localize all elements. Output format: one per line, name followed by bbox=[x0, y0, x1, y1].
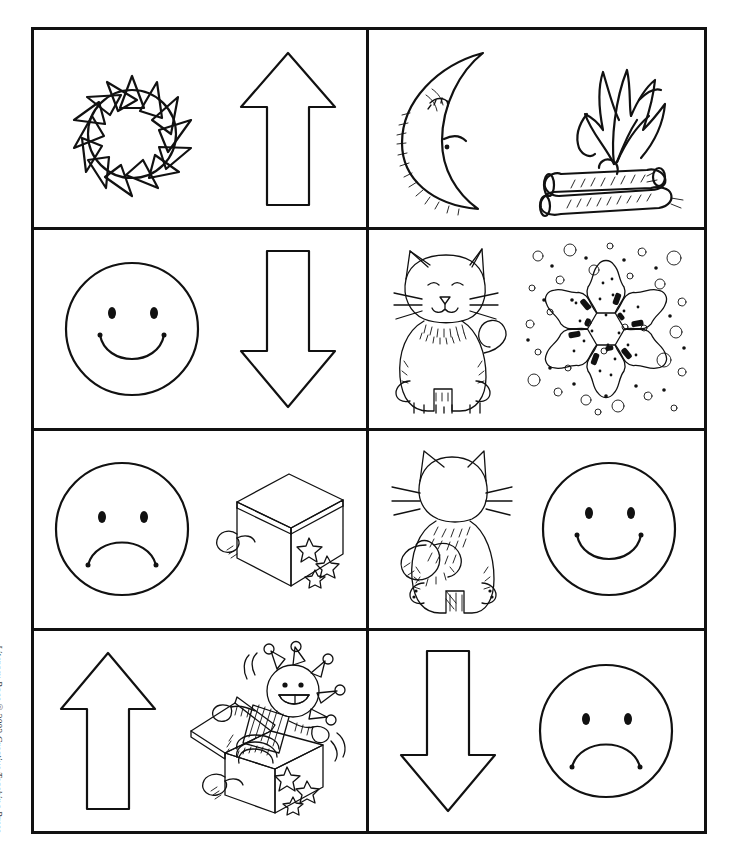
campfire-icon bbox=[531, 40, 687, 218]
up-arrow-icon bbox=[233, 45, 343, 213]
copyright-credit-text: Literacy Bags © 2002 Creative Teaching P… bbox=[0, 645, 3, 833]
sun-icon bbox=[58, 50, 206, 208]
up-arrow-icon bbox=[53, 645, 163, 817]
sad-face-icon bbox=[532, 657, 680, 805]
picture-card[interactable] bbox=[34, 230, 369, 430]
picture-card[interactable] bbox=[34, 30, 369, 230]
picture-card-grid bbox=[31, 27, 707, 834]
picture-card[interactable] bbox=[34, 431, 369, 631]
picture-card[interactable] bbox=[369, 431, 704, 631]
picture-card[interactable] bbox=[369, 230, 704, 430]
copyright-credit: Literacy Bags © 2002 Creative Teaching P… bbox=[0, 645, 6, 835]
happy-face-icon bbox=[535, 455, 683, 603]
closed-jack-in-the-box-icon bbox=[203, 462, 353, 596]
sad-face-icon bbox=[48, 455, 196, 603]
picture-card[interactable] bbox=[369, 631, 704, 831]
crescent-moon-icon bbox=[386, 43, 518, 215]
picture-card[interactable] bbox=[34, 631, 369, 831]
worksheet-page: Literacy Bags © 2002 Creative Teaching P… bbox=[0, 0, 730, 855]
snowflake-icon bbox=[524, 240, 689, 418]
cat-front-icon bbox=[384, 241, 514, 417]
happy-face-icon bbox=[58, 255, 206, 403]
open-jack-in-the-box-icon bbox=[181, 645, 347, 817]
down-arrow-icon bbox=[233, 243, 343, 415]
cat-back-icon bbox=[390, 441, 514, 617]
picture-card[interactable] bbox=[369, 30, 704, 230]
down-arrow-icon bbox=[393, 643, 503, 819]
